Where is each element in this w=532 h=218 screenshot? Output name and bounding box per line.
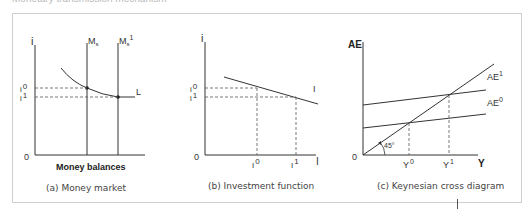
panel-caption: (a) Money market [46,183,127,193]
investment-curve [224,77,318,104]
I1-label: I1 [291,157,299,170]
l-label: L [136,87,141,97]
y-axis-label: i [201,32,203,44]
ae1-line [363,90,486,105]
x-axis-label: Money balances [56,162,126,172]
I0-label: I0 [252,157,260,170]
x-axis-label: I [316,156,319,167]
panel-investment-function: i 0 I I i0 i1 I0 I1 (b) Investment funct… [190,32,319,191]
45-degree-line [363,64,494,155]
investment-curve-label: I [313,84,316,94]
y0-label: Y0 [403,158,414,170]
economics-diagram: i 0 Ms Ms1 L i0 i1 Money balances (a) Mo… [0,0,532,218]
origin-label: 0 [352,152,357,162]
y1-label: Y1 [443,158,454,170]
panel-keynesian-cross: AE 0 Y AE1 AE0 45° Y0 Y1 (c) Keynesian c… [348,39,504,191]
y-axis-label: i [31,35,33,47]
ms-label: Ms [88,36,99,47]
panel-caption: (b) Investment function [208,181,314,191]
ms1-label: Ms1 [119,34,134,47]
x-axis-label: Y [478,158,485,169]
panel-money-market: i 0 Ms Ms1 L i0 i1 Money balances (a) Mo… [20,34,145,193]
ae0-label: AE0 [487,96,503,108]
y-axis-label: AE [348,39,362,50]
ae0-line [363,114,486,128]
panel-caption: (c) Keynesian cross diagram [377,181,504,191]
origin-label: 0 [194,152,199,162]
liquidity-preference-curve [61,68,135,97]
origin-label: 0 [24,152,29,162]
ae1-label: AE1 [487,70,503,82]
angle-label: 45° [384,142,395,149]
text-cursor [457,199,458,209]
